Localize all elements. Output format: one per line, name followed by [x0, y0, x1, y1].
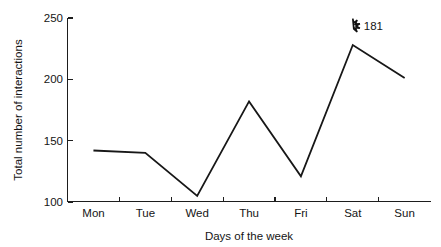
x-tick-label-sat: Sat	[344, 207, 362, 219]
x-axis-tick-labels: Mon Tue Wed Thu Fri Sat Sun	[82, 207, 415, 219]
x-tick-label-sun: Sun	[394, 207, 414, 219]
y-tick-label-100: 100	[44, 196, 63, 208]
y-axis-tick-labels: 250 200 150 100	[44, 12, 63, 208]
x-tick-label-tue: Tue	[136, 207, 155, 219]
star-annotation-label: 181	[364, 20, 383, 32]
x-tick-label-wed: Wed	[185, 207, 208, 219]
y-tick-label-150: 150	[44, 135, 63, 147]
x-axis-ticks	[119, 197, 378, 202]
x-axis-title: Days of the week	[205, 230, 293, 242]
y-axis-title: Total number of interactions	[12, 39, 24, 181]
y-axis-ticks	[68, 18, 73, 202]
axes-group	[68, 18, 432, 202]
x-tick-label-thu: Thu	[239, 207, 259, 219]
line-chart-figure: 250 200 150 100 Mon Tue Wed Thu Fri Sat …	[0, 0, 441, 247]
x-tick-label-mon: Mon	[82, 207, 104, 219]
y-tick-label-250: 250	[44, 12, 63, 24]
x-tick-label-fri: Fri	[294, 207, 307, 219]
star-icon	[353, 19, 360, 32]
star-annotation: 181	[353, 19, 383, 33]
data-series-line	[93, 45, 404, 196]
y-tick-label-200: 200	[44, 73, 63, 85]
chart-canvas: 250 200 150 100 Mon Tue Wed Thu Fri Sat …	[0, 0, 441, 247]
